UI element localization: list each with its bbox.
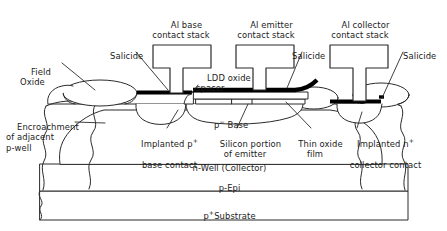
label-encroachment-of-adjacent-p-well: Encroachment of adjacent p-well bbox=[6, 112, 79, 163]
label-p-minus-base: p− Base bbox=[203, 110, 248, 141]
label-salicide-middle: Salicide bbox=[281, 41, 325, 72]
n-plus-superscript: + bbox=[409, 137, 414, 144]
p-plus-superscript: + bbox=[193, 137, 198, 144]
figure-canvas: Al base contact stack Al emitter contact… bbox=[0, 0, 447, 231]
label-field-oxide: Field Oxide bbox=[20, 57, 51, 98]
label-salicide-left: Salicide bbox=[99, 41, 143, 72]
field-oxide-left bbox=[63, 80, 137, 106]
label-p-epi: p-Epi bbox=[190, 173, 258, 204]
label-al-base-contact-stack: Al base contact stack bbox=[141, 10, 221, 51]
label-p-substrate: p+Substrate bbox=[180, 201, 268, 231]
label-salicide-right: Salicide bbox=[392, 41, 436, 72]
label-ldd-oxide-spacer: LDD oxide spacer bbox=[196, 63, 251, 104]
label-implanted-n-collector-contact: Implanted n+ collector contact bbox=[330, 129, 430, 180]
label-al-collector-contact-stack: Al collector contact stack bbox=[320, 10, 400, 51]
